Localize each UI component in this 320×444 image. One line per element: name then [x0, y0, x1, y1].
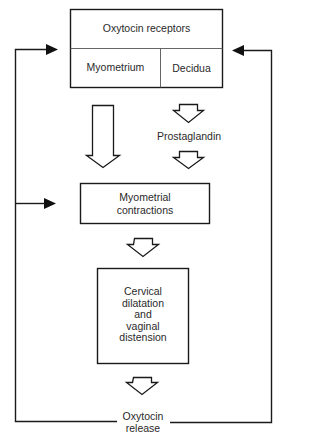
myometrium-to-contractions-arrow [87, 106, 120, 168]
decidua-label: Decidua [160, 62, 223, 75]
myometrial-contractions-text: Myometrial contractions [80, 191, 210, 216]
decidua-to-prostaglandin-arrow [174, 105, 204, 123]
prostaglandin-to-contractions-arrow [174, 152, 204, 169]
myometrium-label: Myometrium [70, 61, 161, 74]
distension-line: distension [97, 332, 189, 344]
oxytocin-receptors-title: Oxytocin receptors [70, 22, 223, 35]
left-middle-arrowhead-icon [44, 198, 56, 209]
oxytocin-release-text: Oxytocin release [112, 410, 174, 434]
right-top-arrowhead-icon [232, 45, 244, 56]
prostaglandin-label: Prostaglandin [150, 130, 228, 143]
contractions-to-cervical-arrow [128, 239, 159, 257]
cervical-line: Cervical [97, 286, 189, 298]
contractions-line: contractions [80, 204, 210, 217]
right-feedback-line [170, 51, 272, 423]
cervical-dilatation-text: Cervical dilatation and vaginal distensi… [97, 286, 189, 344]
left-top-arrowhead-icon [46, 44, 58, 55]
oxytocin-line: Oxytocin [112, 410, 174, 422]
cervical-to-oxytocin-release-arrow [127, 378, 158, 395]
release-line: release [112, 422, 174, 434]
myometrial-line: Myometrial [80, 191, 210, 204]
